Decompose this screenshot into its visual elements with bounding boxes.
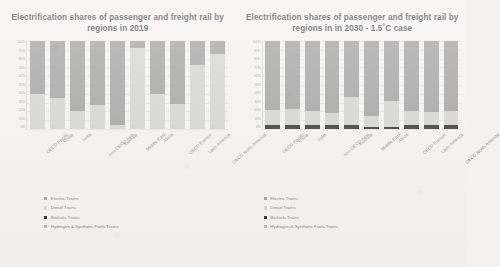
legend-item[interactable]: Diesel Trains [44, 205, 234, 210]
bar-segment-diesel-trains [150, 94, 165, 129]
y-axis-tick: 50% [19, 83, 25, 87]
bar-segment-electric-trains [90, 41, 105, 105]
bar-stack[interactable] [210, 41, 225, 129]
bar-segment-diesel-trains [384, 101, 399, 127]
y-axis-right: 100%90%80%70%60%50%40%30%20%10%0% [244, 41, 261, 130]
bar-segment-electric-trains [444, 41, 459, 111]
y-axis-tick: 90% [19, 49, 25, 53]
legend-swatch-icon [44, 216, 47, 219]
bar-segment-biofuels-trains [364, 127, 379, 129]
y-axis-tick: 50% [254, 83, 260, 87]
y-axis-tick: 80% [19, 58, 25, 62]
bar-segment-diesel-trains [344, 97, 359, 125]
bar-stack[interactable] [404, 41, 419, 129]
bar-segment-electric-trains [30, 41, 45, 94]
bar-stack[interactable] [50, 41, 65, 129]
bar-segment-electric-trains [190, 41, 205, 65]
y-axis-tick: 70% [254, 66, 260, 70]
bar-stack[interactable] [130, 41, 145, 129]
bar-segment-biofuels-trains [325, 125, 340, 129]
chart-panel-2030: Electrification shares of passenger and … [234, 0, 468, 267]
bar-stack[interactable] [90, 41, 105, 129]
legend-item[interactable]: Hydrogen & Synthetic Fuels Trains [264, 224, 468, 229]
legend-label: Biofuels Trains [51, 215, 80, 220]
x-axis-label: India [316, 132, 327, 142]
legend-item[interactable]: Biofuels Trains [264, 215, 468, 220]
bar-segment-diesel-trains [424, 112, 439, 125]
x-axis-label: India [81, 132, 92, 142]
y-axis-tick: 90% [254, 49, 260, 53]
bar-segment-diesel-trains [90, 105, 105, 129]
legend-label: Biofuels Trains [270, 215, 299, 220]
bar-segment-biofuels-trains [305, 125, 320, 129]
legend-item[interactable]: Diesel Trains [264, 205, 468, 210]
bar-stack[interactable] [30, 41, 45, 129]
bar-stack[interactable] [70, 41, 85, 129]
plot-area-right [262, 41, 462, 130]
bar-segment-biofuels-trains [444, 125, 459, 129]
bar-segment-biofuels-trains [265, 125, 280, 129]
y-axis-tick: 60% [254, 75, 260, 79]
bar-segment-biofuels-trains [344, 125, 359, 129]
legend-swatch-icon [44, 206, 47, 209]
legend-swatch-icon [264, 216, 267, 219]
y-axis-tick: 0% [256, 126, 260, 130]
bar-stack[interactable] [285, 41, 300, 129]
bar-segment-electric-trains [50, 41, 65, 98]
legend-item[interactable]: Biofuels Trains [44, 215, 234, 220]
y-axis-tick: 10% [19, 118, 25, 122]
chart-title-right: Electrification shares of passenger and … [242, 0, 464, 34]
bar-segment-electric-trains [325, 41, 340, 113]
bar-segment-electric-trains [265, 41, 280, 110]
legend-item[interactable]: Hydrogen & Synthetic Fuels Trains [44, 224, 234, 229]
bar-segment-electric-trains [364, 41, 379, 116]
bar-stack[interactable] [190, 41, 205, 129]
legend-item[interactable]: Electric Trains [44, 196, 234, 201]
bar-segment-biofuels-trains [384, 127, 399, 129]
bar-stack[interactable] [110, 41, 125, 129]
x-axis-labels-right: OECD PacificChinaIndianon-OECD AsiaEurAs… [262, 130, 462, 168]
bar-stack[interactable] [444, 41, 459, 129]
bar-segment-electric-trains [384, 41, 399, 101]
bar-segment-diesel-trains [190, 65, 205, 129]
bar-segment-diesel-trains [305, 111, 320, 126]
y-axis-tick: 100% [253, 41, 261, 45]
y-axis-tick: 80% [254, 58, 260, 62]
y-axis-tick: 40% [254, 92, 260, 96]
bar-stack[interactable] [265, 41, 280, 129]
bar-stack[interactable] [384, 41, 399, 129]
bar-segment-electric-trains [130, 41, 145, 48]
bar-segment-biofuels-trains [285, 125, 300, 129]
legend-left: Electric TrainsDiesel TrainsBiofuels Tra… [44, 196, 234, 229]
bar-stack[interactable] [325, 41, 340, 129]
bar-stack[interactable] [305, 41, 320, 129]
y-axis-left: 100%90%80%70%60%50%40%30%20%10%0% [8, 41, 25, 130]
bar-segment-electric-trains [285, 41, 300, 109]
bar-stack[interactable] [150, 41, 165, 129]
bar-stack[interactable] [344, 41, 359, 129]
bar-segment-diesel-trains [404, 111, 419, 125]
bar-segment-diesel-trains [444, 111, 459, 125]
bar-segment-diesel-trains [364, 116, 379, 127]
chart-title-left: Electrification shares of passenger and … [6, 0, 230, 34]
x-axis-label: OECD North America [465, 132, 500, 165]
bar-segment-electric-trains [344, 41, 359, 97]
bar-stack[interactable] [170, 41, 185, 129]
legend-right: Electric TrainsDiesel TrainsBiofuels Tra… [264, 196, 468, 229]
bar-segment-diesel-trains [265, 110, 280, 126]
legend-item[interactable]: Electric Trains [264, 196, 468, 201]
legend-label: Electric Trains [51, 196, 79, 201]
legend-label: Diesel Trains [51, 205, 76, 210]
bar-segment-diesel-trains [210, 54, 225, 129]
y-axis-tick: 30% [19, 101, 25, 105]
legend-swatch-icon [264, 206, 267, 209]
bar-segment-electric-trains [305, 41, 320, 111]
legend-label: Diesel Trains [270, 205, 295, 210]
x-axis-labels-left: OECD PacificChinaIndianon-OECD AsiaEurAs… [26, 130, 228, 168]
y-axis-tick: 30% [254, 101, 260, 105]
bar-stack[interactable] [424, 41, 439, 129]
bar-segment-electric-trains [210, 41, 225, 54]
bar-stack[interactable] [364, 41, 379, 129]
bar-segment-diesel-trains [110, 125, 125, 129]
